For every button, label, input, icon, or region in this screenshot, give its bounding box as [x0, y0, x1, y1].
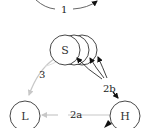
- edge-3: 3: [29, 59, 56, 95]
- edge-label-3: 3: [39, 69, 45, 80]
- node-h-label: H: [120, 110, 130, 123]
- edge-2a: 2a: [42, 109, 110, 120]
- node-s[interactable]: S: [50, 35, 80, 65]
- node-l-label: L: [21, 110, 29, 123]
- node-l[interactable]: L: [10, 101, 40, 128]
- node-h[interactable]: H: [110, 101, 140, 128]
- node-s-label: S: [61, 44, 69, 57]
- state-diagram: 1 3 2a S 2b L H: [0, 0, 146, 128]
- edge-label-2a: 2a: [70, 109, 82, 120]
- edge-label-1: 1: [61, 4, 67, 15]
- edge-1: 1: [36, 0, 97, 15]
- edge-label-2b: 2b: [103, 83, 116, 94]
